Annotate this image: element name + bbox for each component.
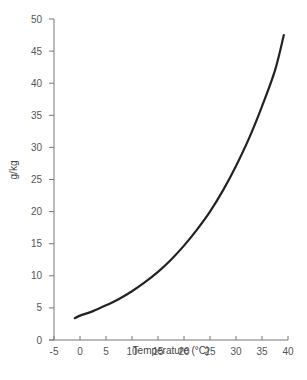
x-tick-label: 30 bbox=[230, 346, 242, 357]
y-tick-label: 30 bbox=[31, 142, 43, 153]
y-axis-title: g/kg bbox=[8, 161, 19, 180]
x-tick-label: 35 bbox=[256, 346, 268, 357]
y-tick-label: 15 bbox=[31, 238, 43, 249]
y-tick-label: 25 bbox=[31, 174, 43, 185]
x-tick-label: 5 bbox=[103, 346, 109, 357]
y-tick-label: 40 bbox=[31, 78, 43, 89]
chart: 05101520253035404550 -50510152025303540 … bbox=[0, 0, 307, 380]
y-tick-label: 5 bbox=[36, 302, 42, 313]
y-tick-label: 45 bbox=[31, 46, 43, 57]
plot-area bbox=[75, 35, 284, 318]
x-tick-label: 40 bbox=[282, 346, 294, 357]
x-tick-label: 0 bbox=[77, 346, 83, 357]
y-tick-label: 50 bbox=[31, 14, 43, 25]
x-tick-label: -5 bbox=[50, 346, 59, 357]
y-tick-label: 20 bbox=[31, 206, 43, 217]
y-tick-label: 35 bbox=[31, 110, 43, 121]
y-axis: 05101520253035404550 bbox=[31, 14, 54, 346]
data-series-line bbox=[75, 35, 284, 318]
x-axis-title: Temperature (°C) bbox=[133, 345, 210, 356]
y-tick-label: 10 bbox=[31, 270, 43, 281]
y-tick-label: 0 bbox=[36, 335, 42, 346]
